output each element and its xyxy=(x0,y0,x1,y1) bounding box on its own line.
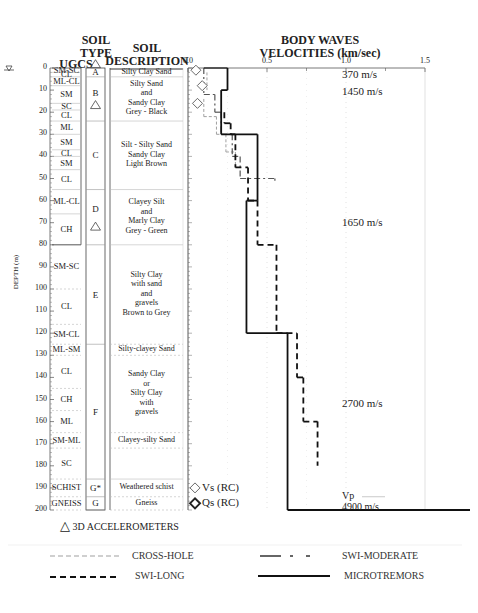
ugcs-layer-label: ML xyxy=(60,122,73,132)
soil-type-label: A xyxy=(92,67,99,77)
soil-description-text: Silty Clay xyxy=(130,270,162,279)
soil-description-text: with xyxy=(139,398,153,407)
soil-description-text: and xyxy=(141,289,153,298)
ugcs-layer-label: SC xyxy=(61,458,71,468)
depth-tick-label: 0 xyxy=(43,62,47,71)
soil-description-text: Clayey Silt xyxy=(129,197,165,206)
soil-description-text: with sand xyxy=(131,279,162,288)
soil-type-label: G* xyxy=(90,483,101,493)
velocity-tick-label: 0.5 xyxy=(262,56,272,65)
depth-tick-label: 120 xyxy=(35,327,47,336)
ugcs-layer-label: SM xyxy=(60,158,72,168)
ugcs-layer-label: SM xyxy=(60,89,72,99)
soil-description-text: gravels xyxy=(135,298,158,307)
ugcs-layer-label: CL xyxy=(61,148,72,158)
soil-type-label: E xyxy=(93,290,99,300)
soil-description-text: Grey - Green xyxy=(125,226,167,235)
depth-tick-label: 170 xyxy=(35,438,47,447)
soil-description-text: Clayey-silty Sand xyxy=(118,435,175,444)
soil-description-text: Silty-clayey Sand xyxy=(118,344,175,353)
velocity-tick-label: 1.0 xyxy=(341,56,351,65)
accelerometer-legend-label: 3D ACCELEROMETERS xyxy=(73,521,179,532)
vs-diamond-marker xyxy=(191,65,201,75)
depth-tick-label: 50 xyxy=(39,173,47,182)
soil-description-text: Grey - Black xyxy=(126,107,167,116)
vp-annotation: 4900 m/s xyxy=(342,501,379,512)
soil-type-label: F xyxy=(93,407,98,417)
ugcs-layer-label: SM-CL xyxy=(54,329,80,339)
vp-annotation: 2700 m/s xyxy=(342,397,383,409)
depth-tick-label: 150 xyxy=(35,394,47,403)
soil-type-label: G xyxy=(92,498,99,508)
soil-description-text: or xyxy=(143,379,150,388)
soil-description-text: Marly Clay xyxy=(128,216,165,225)
ugcs-layer-label: SM-SC xyxy=(54,261,80,271)
ugcs-layer-label: CH xyxy=(61,224,73,234)
ugcs-layer-label: SCHIST xyxy=(52,482,81,492)
soil-type-label: D xyxy=(92,204,99,214)
ugcs-layer-label: GNEISS xyxy=(52,498,82,508)
depth-tick-label: 130 xyxy=(35,349,47,358)
depth-tick-label: 10 xyxy=(39,84,47,93)
vp-annotation: 1450 m/s xyxy=(342,85,383,97)
ugcs-layer-label: CL xyxy=(61,174,72,184)
legend-microtremors: MICROTREMORS xyxy=(344,570,424,581)
qs-legend-label: Qs (RC) xyxy=(202,496,239,508)
soil-description-text: Light Brown xyxy=(126,159,167,168)
depth-tick-label: 200 xyxy=(35,504,47,513)
soil-description-text: Gneiss xyxy=(136,498,158,507)
ugcs-layer-label: ML-SM xyxy=(53,344,81,354)
depth-tick-label: 160 xyxy=(35,416,47,425)
depth-tick-label: 70 xyxy=(39,217,47,226)
ugcs-layer-label: SM-ML xyxy=(53,435,81,445)
ugcs-layer-label: CL xyxy=(61,110,72,120)
depth-tick-label: 60 xyxy=(39,195,47,204)
soil-description-text: Silt - Silty Sand xyxy=(121,140,172,149)
depth-tick-label: 30 xyxy=(39,128,47,137)
soil-description-text: Silty Sand xyxy=(130,79,163,88)
accelerometer-triangle-icon xyxy=(91,101,101,109)
legend-crosshole: CROSS-HOLE xyxy=(132,550,194,561)
soil-description-text: Weathered schist xyxy=(119,482,173,491)
depth-tick-label: 90 xyxy=(39,261,47,270)
vp-annotation: Vp xyxy=(342,490,354,501)
vs-legend-label: Vs (RC) xyxy=(202,481,239,493)
ugcs-layer-label: CL xyxy=(61,301,72,311)
depth-tick-label: 100 xyxy=(35,283,47,292)
soil-type-label: B xyxy=(92,88,98,98)
ugcs-layer-label: ML xyxy=(60,416,73,426)
qs-legend-diamond-icon xyxy=(190,498,200,508)
soil-description-text: Silty Clay xyxy=(130,388,162,397)
soil-description-text: Silty Clay Sand xyxy=(121,67,171,76)
ugcs-layer-label: ML-CL xyxy=(53,76,79,86)
soil-description-text: Sandy Clay xyxy=(128,98,165,107)
depth-tick-label: 180 xyxy=(35,460,47,469)
depth-tick-label: 110 xyxy=(35,305,47,314)
ugcs-layer-label: ML-CL xyxy=(53,196,79,206)
soil-description-text: and xyxy=(141,88,153,97)
soil-description-text: Sandy Clay xyxy=(128,369,165,378)
depth-tick-label: 20 xyxy=(39,106,47,115)
velocity-tick-label: 0.0 xyxy=(183,56,193,65)
soil-description-text: gravels xyxy=(135,407,158,416)
vp-annotation: 1650 m/s xyxy=(342,216,383,228)
soil-description-text: and xyxy=(141,207,153,216)
soil-description-text: Sandy Clay xyxy=(128,150,165,159)
soil-type-label: C xyxy=(92,150,98,160)
vp-annotation: 370 m/s xyxy=(342,68,377,80)
vs-diamond-marker xyxy=(192,98,202,108)
velocity-tick-label: 1.5 xyxy=(420,56,430,65)
depth-tick-label: 40 xyxy=(39,150,47,159)
ugcs-layer-label: SM xyxy=(60,137,72,147)
accelerometer-legend: △ 3D ACCELEROMETERS xyxy=(60,518,179,534)
depth-tick-label: 190 xyxy=(35,482,47,491)
accelerometer-triangle-icon xyxy=(91,222,101,230)
vs-legend-diamond-icon xyxy=(190,483,200,493)
depth-tick-label: 80 xyxy=(39,239,47,248)
vs-diamond-marker xyxy=(197,81,207,91)
legend-swi-moderate: SWI-MODERATE xyxy=(342,550,418,561)
legend-swi-long: SWI-LONG xyxy=(135,570,184,581)
ugcs-layer-label: CH xyxy=(61,394,73,404)
ugcs-layer-label: CL xyxy=(61,366,72,376)
triangle-icon: △ xyxy=(60,518,70,533)
